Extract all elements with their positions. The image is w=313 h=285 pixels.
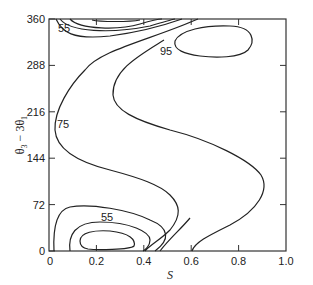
x-tick-0: 0 (47, 255, 53, 267)
x-tick-0.4: 0.4 (136, 255, 151, 267)
y-axis-label: θ3 − 3θ1 (13, 116, 29, 154)
y-tick-144: 144 (27, 152, 45, 164)
contour-label-75: 75 (57, 118, 69, 130)
y-axis: 0 72 144 216 288 360 (27, 13, 286, 257)
x-tick-0.2: 0.2 (89, 255, 104, 267)
x-tick-1.0: 1.0 (278, 255, 293, 267)
x-tick-0.6: 0.6 (184, 255, 199, 267)
x-tick-0.8: 0.8 (231, 255, 246, 267)
y-tick-360: 360 (27, 13, 45, 25)
svg-text:θ3 − 3θ1: θ3 − 3θ1 (13, 116, 29, 154)
y-tick-216: 216 (27, 106, 45, 118)
x-axis-label: S (167, 268, 173, 282)
contour-chart: 0 72 144 216 288 360 0 0.2 0.4 0.6 0.8 1… (0, 0, 313, 285)
contour-label-55-bottom: 55 (101, 211, 113, 223)
y-tick-288: 288 (27, 59, 45, 71)
y-tick-72: 72 (33, 199, 45, 211)
contour-lines (54, 19, 264, 251)
contour-label-95: 95 (160, 45, 172, 57)
contour-label-55-top: 55 (58, 22, 70, 34)
y-tick-0: 0 (39, 245, 45, 257)
